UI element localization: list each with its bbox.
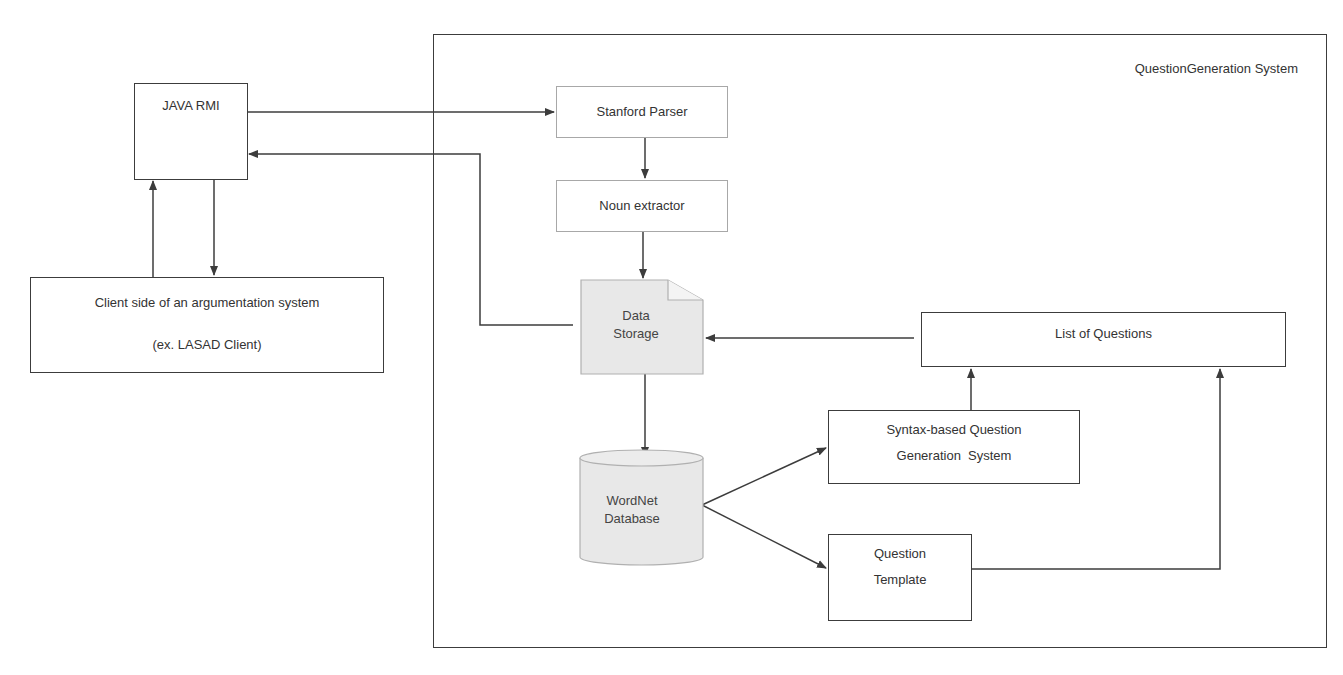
question-template-label-line2: Template <box>874 572 927 588</box>
data-storage-node[interactable]: Data Storage <box>581 307 691 342</box>
syntax-qg-label-line1: Syntax-based Question <box>886 422 1021 438</box>
question-template-node[interactable]: Question Template <box>828 534 972 621</box>
client-label-line2: (ex. LASAD Client) <box>152 337 261 353</box>
noun-extractor-label: Noun extractor <box>599 198 684 214</box>
java-rmi-node[interactable]: JAVA RMI <box>134 83 248 180</box>
wordnet-database-node[interactable]: WordNet Database <box>580 492 684 527</box>
data-storage-label-line1: Data <box>581 307 691 325</box>
data-storage-label-line2: Storage <box>581 325 691 343</box>
syntax-based-qg-node[interactable]: Syntax-based Question Generation System <box>828 410 1080 484</box>
list-of-questions-label: List of Questions <box>1055 326 1152 342</box>
noun-extractor-node[interactable]: Noun extractor <box>556 180 728 232</box>
syntax-qg-label-line2: Generation System <box>897 448 1012 464</box>
client-node[interactable]: Client side of an argumentation system (… <box>30 277 384 373</box>
stanford-parser-label: Stanford Parser <box>596 104 687 120</box>
wordnet-label-line1: WordNet <box>580 492 684 510</box>
list-of-questions-node[interactable]: List of Questions <box>921 312 1286 367</box>
client-label-line1: Client side of an argumentation system <box>95 295 320 311</box>
stanford-parser-node[interactable]: Stanford Parser <box>556 86 728 138</box>
wordnet-label-line2: Database <box>580 510 684 528</box>
java-rmi-label: JAVA RMI <box>162 98 219 114</box>
container-title: QuestionGeneration System <box>1135 61 1298 76</box>
question-template-label-line1: Question <box>874 546 926 562</box>
